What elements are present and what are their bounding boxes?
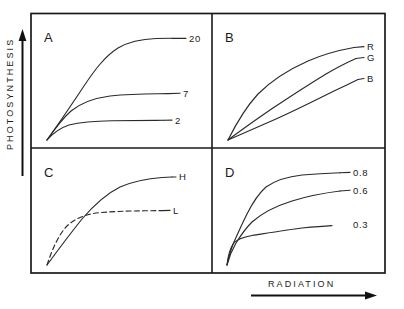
panel-d-curve-06 [227,191,340,265]
panel-d-curve-08 [227,173,340,265]
panel-b-curve-b [228,80,358,141]
panel-b-label-r: R [367,41,375,52]
panel-b: B R G B [225,30,375,140]
panel-b-label-g: G [367,52,375,63]
panel-c-curve-h [47,177,172,265]
panel-c-curve-l [47,211,162,265]
panel-b-leader-r [354,47,364,48]
panel-d-label-03: 0.3 [353,219,368,230]
panel-a-label-7: 7 [183,88,189,99]
panel-a-label-20: 20 [189,33,201,44]
panel-b-leader-b [358,79,364,80]
panel-c-letter: C [44,165,54,180]
panel-b-label-b: B [367,73,374,84]
photosynthesis-radiation-figure: PHOTOSYNTHESIS A 20 7 2 B [0,0,404,309]
panel-a-curve-20 [47,38,172,140]
y-axis-arrow [19,29,27,176]
panel-b-leader-g [356,58,364,59]
panel-d-leader-06 [340,190,350,191]
panel-a: A 20 7 2 [44,30,201,140]
panel-d-label-08: 0.8 [353,167,368,178]
x-axis-label: RADIATION [268,279,335,289]
panel-a-curve-2 [47,120,164,140]
panel-c-label-l: L [173,205,179,216]
panel-a-label-2: 2 [175,115,181,126]
panel-d: D 0.8 0.6 0.3 [225,165,368,265]
panel-b-curve-g [228,59,356,141]
figure-container: PHOTOSYNTHESIS A 20 7 2 B [0,0,404,309]
panel-a-letter: A [44,30,53,45]
panel-c-label-h: H [179,171,187,182]
panel-b-letter: B [225,30,234,45]
x-axis-arrow [251,291,377,299]
panel-a-curve-7 [47,94,168,140]
panel-d-label-06: 0.6 [353,185,368,196]
panel-d-curve-03 [227,226,332,265]
panel-c: C H L [44,165,187,265]
panel-d-letter: D [225,165,235,180]
y-axis-label: PHOTOSYNTHESIS [5,38,15,150]
